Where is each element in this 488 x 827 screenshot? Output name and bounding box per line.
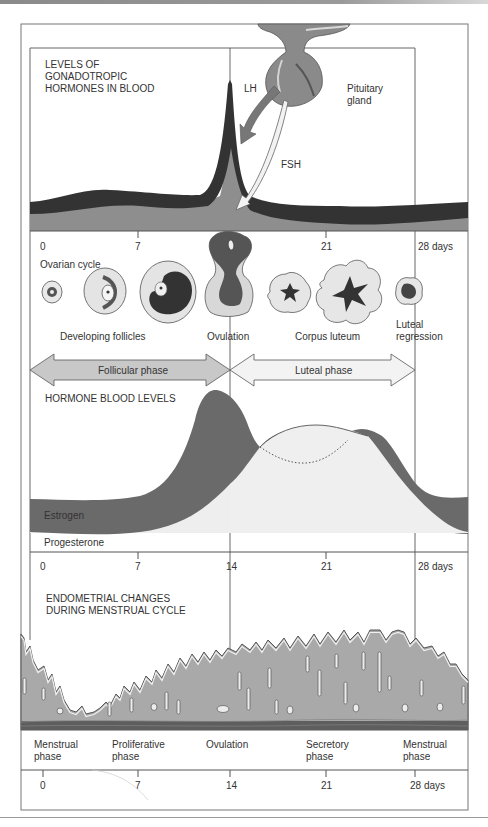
- corpus-luteum-label: Corpus luteum: [295, 331, 360, 342]
- gonadotropic-panel: LEVELS OF GONADOTROPIC HORMONES IN BLOOD…: [30, 24, 468, 660]
- gonadotropic-title-2: GONADOTROPIC: [45, 71, 127, 82]
- luteal-phase-label: Luteal phase: [295, 365, 353, 376]
- corpus-luteum-small-icon: [268, 272, 311, 312]
- corpus-albicans-icon: [396, 278, 423, 305]
- hormone-tick-21: 21: [321, 561, 333, 572]
- ovarian-tick-21: 21: [321, 241, 333, 252]
- gonadotropic-title-1: LEVELS OF: [45, 59, 99, 70]
- luteal-regression-label-1: Luteal: [396, 319, 423, 330]
- pituitary-label-1: Pituitary: [347, 83, 383, 94]
- follicular-phase-label: Follicular phase: [98, 365, 168, 376]
- ovarian-panel: 0 7 14 21 28 days Ovarian cycle: [30, 231, 453, 386]
- gonadotropic-title-3: HORMONES IN BLOOD: [45, 83, 154, 94]
- hormone-levels-panel: HORMONE BLOOD LEVELS Estrogen Progestero…: [30, 390, 468, 572]
- phase-label-menstrual-2b: phase: [403, 751, 431, 762]
- hormone-tick-7: 7: [135, 561, 141, 572]
- phase-label-proliferative: Proliferative: [112, 739, 165, 750]
- secondary-follicle-icon: [84, 268, 126, 314]
- phase-label-menstrual-1: Menstrual: [34, 739, 78, 750]
- hormone-levels-title: HORMONE BLOOD LEVELS: [45, 393, 176, 404]
- endometrium-tissue: [21, 630, 468, 730]
- primary-follicle-icon: [42, 281, 62, 303]
- phase-label-menstrual-2: Menstrual: [403, 739, 447, 750]
- luteal-regression-label-2: regression: [396, 331, 443, 342]
- endometrial-tick-28: 28 days: [410, 780, 445, 791]
- mature-follicle-icon: [140, 261, 196, 323]
- hormone-tick-28: 28 days: [418, 561, 453, 572]
- ovarian-tick-7: 7: [135, 241, 141, 252]
- developing-follicles-label: Developing follicles: [60, 331, 146, 342]
- endometrial-title-1: ENDOMETRIAL CHANGES: [46, 593, 170, 604]
- endometrial-title-2: DURING MENSTRUAL CYCLE: [46, 605, 186, 616]
- endometrial-tick-0: 0: [40, 780, 46, 791]
- corpus-luteum-large-icon: [316, 260, 381, 323]
- endometrial-tick-14: 14: [226, 780, 238, 791]
- ovarian-cycle-label: Ovarian cycle: [40, 259, 101, 270]
- phase-label-ovulation: Ovulation: [206, 739, 248, 750]
- ovulation-label: Ovulation: [207, 331, 249, 342]
- estrogen-label: Estrogen: [44, 510, 84, 521]
- page-bottom-rule: [0, 817, 488, 818]
- menstrual-cycle-diagram: LEVELS OF GONADOTROPIC HORMONES IN BLOOD…: [0, 0, 488, 827]
- ovarian-tick-28: 28 days: [418, 241, 453, 252]
- ovulation-follicle-icon: [205, 232, 253, 317]
- phase-label-secretory-b: phase: [306, 751, 334, 762]
- fsh-label: FSH: [281, 159, 301, 170]
- phase-label-menstrual-1b: phase: [34, 751, 62, 762]
- phase-label-proliferative-b: phase: [112, 751, 140, 762]
- phase-label-secretory: Secretory: [306, 739, 349, 750]
- lh-label: LH: [244, 83, 257, 94]
- progesterone-label: Progesterone: [44, 537, 104, 548]
- pituitary-label-2: gland: [347, 95, 371, 106]
- ovarian-tick-0: 0: [40, 241, 46, 252]
- endometrial-panel: ENDOMETRIAL CHANGES DURING MENSTRUAL CYC…: [21, 593, 468, 800]
- endometrial-tick-21: 21: [321, 780, 333, 791]
- hormone-tick-14: 14: [226, 561, 238, 572]
- hormone-tick-0: 0: [40, 561, 46, 572]
